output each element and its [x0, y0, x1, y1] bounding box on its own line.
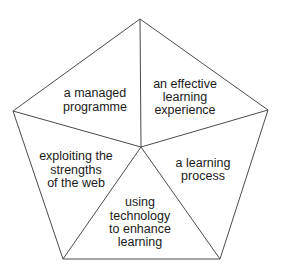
segment-label-line: technology: [110, 209, 171, 223]
segment-exploiting-web: exploiting the strengths of the web: [39, 149, 113, 190]
spoke-left: [13, 111, 141, 147]
segment-label-line: a managed: [64, 86, 127, 100]
segment-label-line: of the web: [47, 176, 105, 190]
segment-label-line: learning: [118, 235, 163, 249]
segment-label-line: experience: [154, 103, 215, 117]
segment-label-line: learning: [163, 90, 208, 104]
segment-label-line: strengths: [50, 163, 101, 177]
segment-label-line: a learning: [176, 156, 231, 170]
segment-using-technology: using technology to enhance learning: [109, 195, 171, 249]
segment-managed-programme: a managed programme: [63, 86, 127, 114]
segment-learning-process: a learning process: [176, 156, 231, 183]
segment-label-line: an effective: [153, 77, 217, 91]
segment-label-line: to enhance: [109, 222, 171, 236]
pentagon-diagram: a managed programme an effective learnin…: [0, 0, 286, 271]
segment-label-line: exploiting the: [39, 149, 113, 163]
segment-label-line: using: [125, 195, 155, 209]
segment-label-line: programme: [63, 100, 127, 114]
spoke-top: [140, 19, 141, 147]
segment-label-line: process: [181, 169, 225, 183]
segment-effective-learning-experience: an effective learning experience: [153, 77, 217, 117]
